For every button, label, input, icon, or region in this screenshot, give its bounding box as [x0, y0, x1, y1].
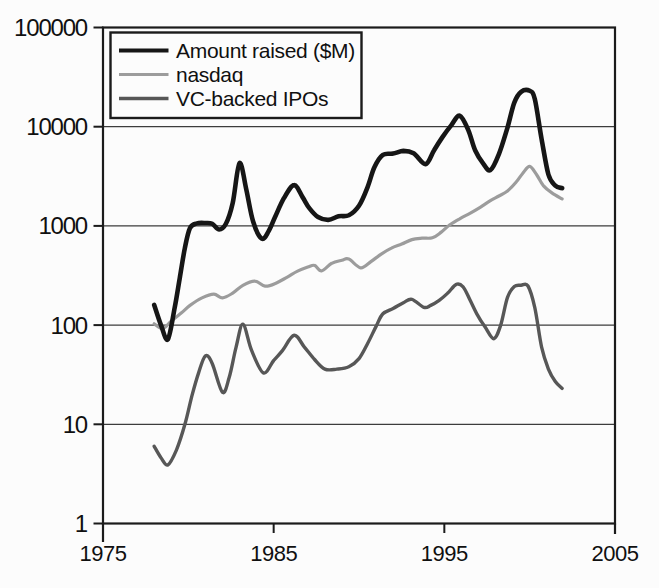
- legend-label-amount-raised-m: Amount raised ($M): [176, 39, 355, 62]
- y-tick-label: 100: [51, 312, 88, 339]
- y-tick-label: 10000: [26, 113, 88, 140]
- y-tick-label: 10: [63, 411, 88, 438]
- chart-figure: 1101001000100001000001975198519952005Amo…: [0, 0, 659, 588]
- y-tick-label: 1000: [38, 212, 87, 239]
- x-tick-label: 1985: [250, 541, 297, 566]
- series-line-nasdaq: [154, 166, 562, 328]
- log-line-chart: 1101001000100001000001975198519952005Amo…: [0, 0, 659, 588]
- series-vc-backed-ipos: [154, 284, 562, 465]
- x-tick-label: 2005: [592, 541, 639, 566]
- x-axis: 1975198519952005: [80, 524, 639, 566]
- y-axis: 110100100010000100000: [14, 14, 103, 537]
- legend-label-vc-backed-ipos: VC-backed IPOs: [176, 87, 328, 110]
- legend-label-nasdaq: nasdaq: [176, 63, 243, 86]
- series-nasdaq: [154, 166, 562, 328]
- y-tick-label: 1: [75, 510, 88, 537]
- series-line-amount-raised-m: [154, 90, 562, 340]
- x-tick-label: 1995: [421, 541, 468, 566]
- legend: Amount raised ($M)nasdaqVC-backed IPOs: [111, 33, 362, 119]
- series-line-vc-backed-ipos: [154, 284, 562, 465]
- x-tick-label: 1975: [80, 541, 127, 566]
- series-amount-raised-m: [154, 90, 562, 340]
- y-tick-label: 100000: [14, 14, 88, 41]
